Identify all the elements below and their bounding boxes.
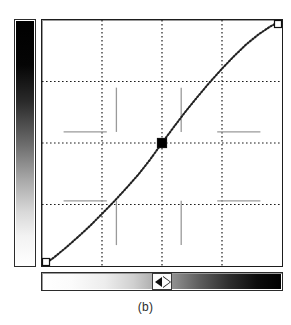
curve-plot-canvas[interactable] xyxy=(42,20,282,266)
curve-editor-figure: (b) xyxy=(0,0,291,325)
control-point-endpoint-high[interactable] xyxy=(275,21,282,28)
horizontal-output-gradient-slider[interactable] xyxy=(41,272,283,291)
triangle-right-icon xyxy=(163,277,170,287)
curve-plot-svg[interactable] xyxy=(42,20,282,266)
control-point-endpoint-low[interactable] xyxy=(43,259,50,266)
figure-caption: (b) xyxy=(0,300,291,314)
triangle-left-icon xyxy=(155,277,162,287)
control-point-midpoint[interactable] xyxy=(158,139,167,148)
curve-plot-area[interactable] xyxy=(41,19,283,267)
vertical-input-gradient[interactable] xyxy=(14,19,36,267)
gamma-slider-thumb[interactable] xyxy=(152,273,172,290)
horizontal-gradient-fill xyxy=(43,274,281,289)
vertical-gradient-fill xyxy=(16,21,34,265)
